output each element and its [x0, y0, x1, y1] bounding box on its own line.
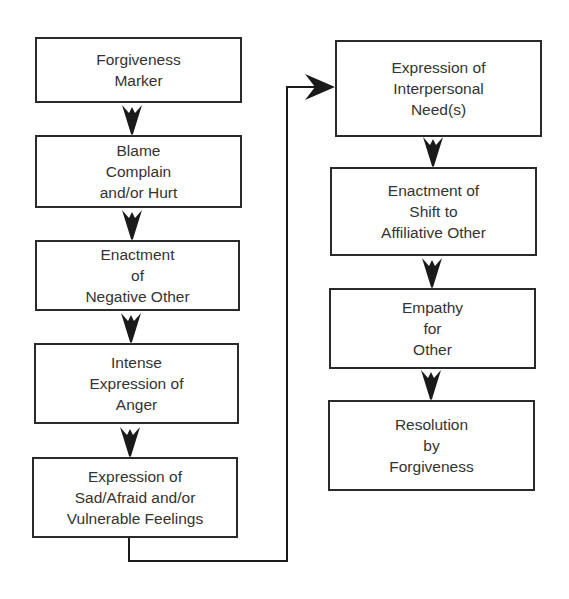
box-label: Resolution by Forgiveness	[389, 414, 473, 477]
arrow-right-icon	[305, 74, 335, 100]
arrow-down-icon	[120, 427, 140, 457]
box-intense-expression-anger: Intense Expression of Anger	[34, 343, 239, 424]
box-label: Expression of Interpersonal Need(s)	[392, 57, 486, 120]
box-expression-sad-afraid-vulnerable: Expression of Sad/Afraid and/or Vulnerab…	[32, 457, 238, 538]
box-label: Intense Expression of Anger	[90, 352, 184, 415]
box-label: Enactment of Shift to Affiliative Other	[381, 180, 486, 243]
arrow-down-icon	[122, 210, 142, 240]
box-label: Forgiveness Marker	[96, 49, 180, 91]
box-resolution-by-forgiveness: Resolution by Forgiveness	[328, 400, 535, 491]
box-label: Blame Complain and/or Hurt	[100, 140, 178, 203]
box-empathy-for-other: Empathy for Other	[329, 288, 536, 369]
box-label: Enactment of Negative Other	[85, 244, 189, 307]
box-label: Empathy for Other	[402, 297, 463, 360]
arrow-down-icon	[122, 105, 142, 135]
box-label: Expression of Sad/Afraid and/or Vulnerab…	[67, 466, 203, 529]
box-enactment-negative-other: Enactment of Negative Other	[35, 240, 240, 311]
arrow-down-icon	[422, 258, 442, 288]
box-forgiveness-marker: Forgiveness Marker	[35, 37, 242, 103]
arrow-down-icon	[121, 313, 141, 343]
forgiveness-flowchart: Forgiveness Marker Blame Complain and/or…	[0, 0, 569, 599]
box-expression-interpersonal-needs: Expression of Interpersonal Need(s)	[335, 40, 542, 137]
box-blame-complain-hurt: Blame Complain and/or Hurt	[35, 135, 242, 208]
arrow-down-icon	[421, 370, 441, 400]
arrow-down-icon	[423, 137, 443, 167]
box-enactment-shift-affiliative-other: Enactment of Shift to Affiliative Other	[330, 167, 537, 256]
